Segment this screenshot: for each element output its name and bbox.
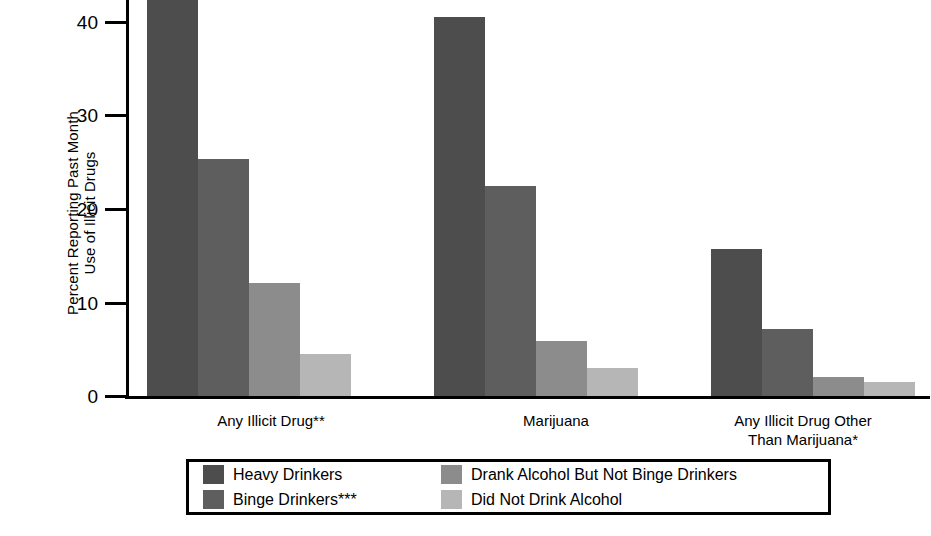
y-tick-label-30: 30 [77,104,98,126]
y-tick-30: 30 [105,114,126,117]
y-tick-10: 10 [105,302,126,305]
bar-1-1 [485,186,536,396]
y-tick-label-10: 10 [77,292,98,314]
bar-chart-figure: Percent Reporting Past Month Use of Illi… [0,0,931,536]
bar-0-0 [147,0,198,396]
y-tick-40: 40 [105,21,126,24]
legend-label-0: Heavy Drinkers [233,466,342,484]
legend-label-3: Did Not Drink Alcohol [471,491,622,509]
legend-swatch-icon-0 [203,465,224,484]
y-tick-20: 20 [105,208,126,211]
bars-layer [126,0,931,398]
bar-2-2 [813,377,864,396]
bar-2-1 [762,329,813,396]
plot-area: 40 30 20 10 0 [126,0,931,399]
y-tick-label-0: 0 [87,385,98,407]
bar-2-0 [711,249,762,396]
legend-label-1: Binge Drinkers*** [233,491,357,509]
y-tick-0: 0 [105,395,126,398]
bar-1-3 [587,368,638,396]
legend-item-1: Binge Drinkers*** [203,490,441,509]
bar-0-1 [198,159,249,396]
bar-1-2 [536,341,587,396]
bar-0-3 [300,354,351,396]
legend-swatch-icon-3 [441,490,462,509]
legend-item-0: Heavy Drinkers [203,465,441,484]
bar-2-3 [864,382,915,396]
legend-label-2: Drank Alcohol But Not Binge Drinkers [471,466,737,484]
legend-item-2: Drank Alcohol But Not Binge Drinkers [441,465,828,484]
legend-swatch-icon-1 [203,490,224,509]
x-axis-category-label-2: Any Illicit Drug Other Than Marijuana* [688,412,918,450]
legend-swatch-icon-2 [441,465,462,484]
y-tick-label-20: 20 [77,198,98,220]
x-axis-category-label-0: Any Illicit Drug** [156,412,386,431]
x-axis-category-label-1: Marijuana [446,412,666,431]
bar-0-2 [249,283,300,396]
chart-legend: Heavy DrinkersDrank Alcohol But Not Bing… [186,459,831,515]
y-tick-label-40: 40 [77,11,98,33]
legend-item-3: Did Not Drink Alcohol [441,490,828,509]
bar-1-0 [434,17,485,396]
